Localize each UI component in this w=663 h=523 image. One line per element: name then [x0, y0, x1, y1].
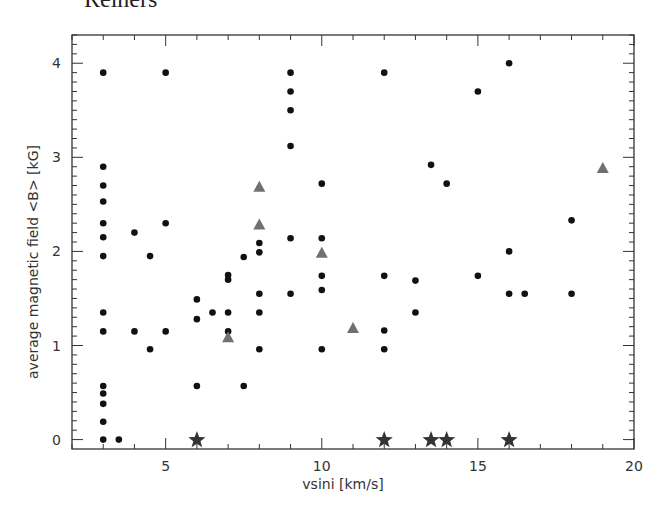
- circle-marker: [194, 383, 201, 390]
- y-tick-label: 0: [52, 432, 61, 448]
- circle-marker: [443, 180, 450, 187]
- triangle-marker: [316, 247, 328, 258]
- circle-marker: [194, 316, 201, 323]
- circle-marker: [100, 390, 107, 397]
- circle-marker: [287, 143, 294, 150]
- x-tick-label: 20: [625, 458, 643, 474]
- circle-marker: [100, 69, 107, 76]
- circle-marker: [428, 162, 435, 169]
- x-tick-label: 5: [161, 458, 170, 474]
- plot-frame: [72, 35, 634, 449]
- y-tick-label: 2: [52, 243, 61, 259]
- circle-marker: [131, 328, 138, 335]
- circle-marker: [256, 346, 263, 353]
- circle-marker: [162, 328, 169, 335]
- circle-marker: [240, 383, 247, 390]
- axis-ticks: [72, 35, 634, 449]
- circle-marker: [506, 60, 513, 67]
- star-marker: [423, 431, 440, 447]
- circle-marker: [100, 328, 107, 335]
- circle-marker: [412, 277, 419, 284]
- triangle-marker: [253, 181, 265, 192]
- circle-marker: [506, 290, 513, 297]
- circle-marker: [100, 383, 107, 390]
- circle-marker: [162, 69, 169, 76]
- circle-marker: [318, 180, 325, 187]
- circle-marker: [568, 217, 575, 224]
- circle-marker: [162, 220, 169, 227]
- circle-marker: [256, 240, 263, 247]
- circle-marker: [521, 290, 528, 297]
- circle-marker: [287, 290, 294, 297]
- circle-marker: [287, 69, 294, 76]
- circle-marker: [287, 88, 294, 95]
- circle-marker: [381, 346, 388, 353]
- triangle-marker: [253, 218, 265, 229]
- circle-marker: [256, 290, 263, 297]
- circle-marker: [100, 198, 107, 205]
- circle-marker: [100, 182, 107, 189]
- circle-marker: [475, 273, 482, 280]
- y-tick-label: 4: [52, 55, 61, 71]
- circle-marker: [381, 273, 388, 280]
- circle-marker: [318, 287, 325, 294]
- circle-marker: [100, 163, 107, 170]
- y-tick-label: 3: [52, 149, 61, 165]
- circle-marker: [147, 346, 154, 353]
- y-axis-label: average magnetic field <B> [kG]: [25, 145, 41, 379]
- circle-marker: [131, 229, 138, 236]
- circle-marker: [225, 276, 232, 283]
- circle-marker: [318, 273, 325, 280]
- circle-marker: [100, 401, 107, 408]
- y-tick-label: 1: [52, 338, 61, 354]
- circle-marker: [225, 309, 232, 316]
- circle-marker: [318, 346, 325, 353]
- circle-marker: [100, 418, 107, 425]
- circle-marker: [506, 248, 513, 255]
- circle-marker: [194, 296, 201, 303]
- circle-marker: [412, 309, 419, 316]
- circle-marker: [475, 88, 482, 95]
- data-markers: [100, 60, 609, 447]
- scatter-plot: 510152001234 vsini [km/s] average magnet…: [0, 0, 663, 523]
- triangle-marker: [597, 162, 609, 173]
- triangle-marker: [222, 331, 234, 342]
- circle-marker: [100, 234, 107, 241]
- circle-marker: [100, 309, 107, 316]
- circle-marker: [256, 309, 263, 316]
- x-axis-label: vsini [km/s]: [302, 476, 383, 492]
- circle-marker: [287, 235, 294, 242]
- x-tick-label: 10: [313, 458, 331, 474]
- triangle-marker: [347, 322, 359, 333]
- circle-marker: [240, 254, 247, 261]
- circle-marker: [100, 220, 107, 227]
- circle-marker: [256, 249, 263, 256]
- circle-marker: [100, 436, 107, 443]
- circle-marker: [209, 309, 216, 316]
- circle-marker: [147, 253, 154, 260]
- tick-labels: 510152001234: [52, 55, 643, 474]
- x-tick-label: 15: [469, 458, 487, 474]
- circle-marker: [568, 290, 575, 297]
- circle-marker: [381, 327, 388, 334]
- circle-marker: [381, 69, 388, 76]
- circle-marker: [100, 253, 107, 260]
- circle-marker: [318, 235, 325, 242]
- circle-marker: [116, 436, 123, 443]
- circle-marker: [287, 107, 294, 114]
